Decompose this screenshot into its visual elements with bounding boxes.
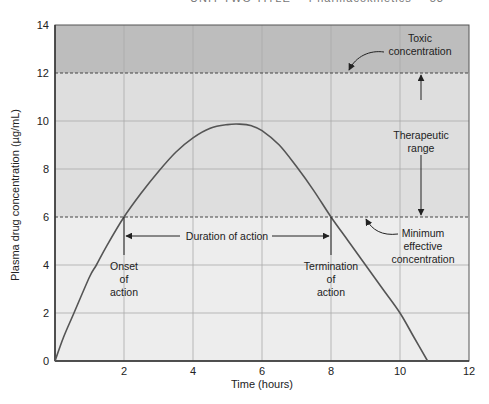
y-tick-label: 8 <box>43 163 49 175</box>
y-tick-label: 6 <box>43 211 49 223</box>
duration-of-action-label: Duration of action <box>186 230 268 242</box>
y-tick-label: 2 <box>43 307 49 319</box>
svg-text:Termination: Termination <box>304 260 358 272</box>
y-tick-label: 4 <box>43 259 49 271</box>
x-tick-label: 6 <box>259 365 265 377</box>
svg-text:range: range <box>408 142 435 154</box>
y-tick-label: 12 <box>37 67 49 79</box>
svg-text:of: of <box>327 273 336 285</box>
y-tick-label: 10 <box>37 115 49 127</box>
y-tick-label: 14 <box>37 19 49 31</box>
svg-text:effective: effective <box>404 240 443 252</box>
x-axis-label: Time (hours) <box>231 378 293 390</box>
svg-text:Toxic: Toxic <box>408 32 432 44</box>
y-axis-label: Plasma drug concentration (µg/mL) <box>9 109 21 281</box>
svg-text:action: action <box>317 286 345 298</box>
svg-text:concentration: concentration <box>388 45 451 57</box>
y-tick-labels: 02468101214 <box>37 19 49 367</box>
svg-text:concentration: concentration <box>391 253 454 265</box>
x-tick-labels: 24681012 <box>121 365 475 377</box>
concentration-time-chart: 02468101214 24681012 Time (hours) Plasma… <box>0 0 489 404</box>
x-tick-label: 12 <box>463 365 475 377</box>
x-tick-label: 2 <box>121 365 127 377</box>
svg-text:Onset: Onset <box>110 260 138 272</box>
x-tick-label: 10 <box>394 365 406 377</box>
y-tick-label: 0 <box>43 355 49 367</box>
x-tick-label: 4 <box>190 365 196 377</box>
svg-text:of: of <box>120 273 129 285</box>
svg-text:action: action <box>110 286 138 298</box>
x-tick-label: 8 <box>328 365 334 377</box>
svg-text:Therapeutic: Therapeutic <box>393 129 448 141</box>
svg-text:Minimum: Minimum <box>402 227 445 239</box>
